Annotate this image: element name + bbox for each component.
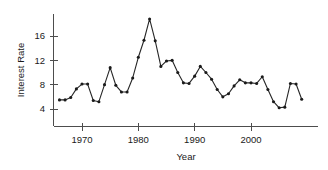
data-point xyxy=(278,106,281,109)
y-tick-label: 16 xyxy=(34,30,45,41)
data-point xyxy=(300,98,303,101)
data-point xyxy=(187,82,190,85)
data-point xyxy=(64,98,67,101)
x-tick-label: 2000 xyxy=(240,134,261,145)
data-point xyxy=(261,75,264,78)
data-point xyxy=(182,81,185,84)
data-line-interest-rate xyxy=(59,19,301,108)
x-tick-label: 1970 xyxy=(71,134,92,145)
data-point xyxy=(210,78,213,81)
data-point xyxy=(92,99,95,102)
data-point xyxy=(114,84,117,87)
data-point xyxy=(58,98,61,101)
x-axis-title: Year xyxy=(176,151,195,162)
data-point xyxy=(120,90,123,93)
data-point xyxy=(148,17,151,20)
data-point xyxy=(283,106,286,109)
data-point xyxy=(69,96,72,99)
data-point xyxy=(176,71,179,74)
data-point xyxy=(137,56,140,59)
x-tick-label: 1990 xyxy=(184,134,205,145)
data-point xyxy=(109,66,112,69)
data-point xyxy=(249,81,252,84)
data-point xyxy=(216,88,219,91)
data-point xyxy=(266,88,269,91)
data-point xyxy=(193,75,196,78)
data-point xyxy=(199,65,202,68)
data-point xyxy=(227,92,230,95)
y-tick-label: 12 xyxy=(34,55,45,66)
data-point xyxy=(131,76,134,79)
data-point xyxy=(221,95,224,98)
data-point xyxy=(295,83,298,86)
data-point xyxy=(272,100,275,103)
axes xyxy=(54,14,319,127)
y-tick-label: 4 xyxy=(40,103,45,114)
line-chart: 481216 1970198019902000 Interest Rate Ye… xyxy=(0,0,328,170)
data-point xyxy=(80,83,83,86)
y-axis-ticks: 481216 xyxy=(34,30,57,114)
x-tick-label: 1980 xyxy=(128,134,149,145)
data-point xyxy=(75,87,78,90)
data-point xyxy=(154,39,157,42)
y-tick-label: 8 xyxy=(40,79,45,90)
data-point xyxy=(159,65,162,68)
x-axis-ticks: 1970198019902000 xyxy=(71,123,261,146)
data-point xyxy=(97,100,100,103)
data-points xyxy=(58,17,303,109)
data-point xyxy=(142,39,145,42)
data-point xyxy=(255,82,258,85)
data-point xyxy=(233,84,236,87)
data-point xyxy=(289,82,292,85)
data-point xyxy=(204,71,207,74)
data-point xyxy=(238,78,241,81)
y-axis-title: Interest Rate xyxy=(15,43,26,97)
data-point xyxy=(86,83,89,86)
data-point xyxy=(103,83,106,86)
data-point xyxy=(126,90,129,93)
data-point xyxy=(244,81,247,84)
chart-container: 481216 1970198019902000 Interest Rate Ye… xyxy=(0,0,328,170)
data-point xyxy=(171,59,174,62)
data-point xyxy=(165,59,168,62)
